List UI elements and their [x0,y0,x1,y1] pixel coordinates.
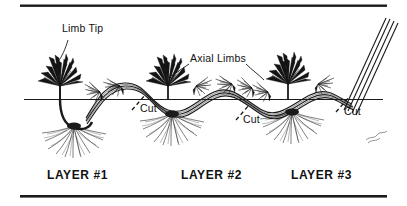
leader-axial-right [246,64,264,80]
bottom-rule [20,195,387,198]
layer-label-3: LAYER #3 [291,168,352,182]
layer-label-2: LAYER #2 [181,168,242,182]
callout-cut-2: Cut [243,113,260,125]
callout-axial-limbs: Axial Limbs [190,52,246,64]
top-rule [20,5,387,7]
layering-diagram-figure: Limb Tip Axial Limbs Cut Cut Cut LAYER #… [0,0,407,206]
artist-signature [366,131,387,143]
callout-cut-3: Cut [344,105,361,117]
continuing-cane [344,18,398,115]
callout-cut-1: Cut [140,102,157,114]
layer-label-1: LAYER #1 [47,168,108,182]
callout-limb-tip: Limb Tip [62,22,103,34]
